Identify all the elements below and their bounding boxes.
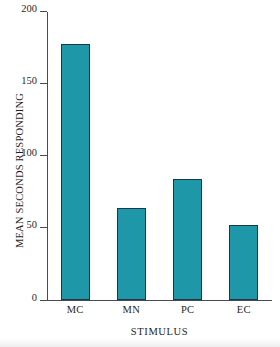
y-tick-2: 100	[40, 155, 47, 156]
y-axis-line	[47, 12, 48, 301]
x-tick-label-pc: PC	[158, 304, 218, 315]
x-tick-label-mn: MN	[101, 304, 161, 315]
plot-area: 0 50 100 150 200 MC MN PC EC	[47, 12, 272, 301]
x-tick-label-mc: MC	[45, 304, 105, 315]
bar-chart-figure: MEAN SECONDS RESPONDING 0 50 100 150 200…	[0, 0, 280, 347]
scan-artifact	[0, 339, 280, 347]
x-axis-title: STIMULUS	[47, 326, 272, 337]
bar-pc	[173, 179, 202, 300]
y-axis-title: MEAN SECONDS RESPONDING	[14, 61, 25, 281]
bar-ec	[229, 225, 258, 300]
bar-mn	[117, 208, 146, 300]
y-tick-label-4: 200	[21, 3, 37, 14]
x-axis-line	[47, 300, 272, 301]
bar-mc	[61, 44, 90, 300]
y-tick-label-0: 0	[32, 292, 37, 303]
y-tick-label-3: 150	[21, 75, 37, 86]
y-tick-4: 200	[40, 11, 47, 12]
y-tick-1: 50	[40, 227, 47, 228]
y-tick-0: 0	[40, 300, 47, 301]
y-tick-label-1: 50	[27, 219, 38, 230]
y-tick-label-2: 100	[21, 147, 37, 158]
y-tick-3: 150	[40, 83, 47, 84]
x-tick-label-ec: EC	[214, 304, 274, 315]
